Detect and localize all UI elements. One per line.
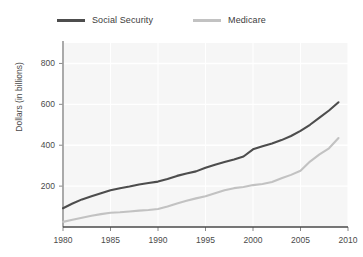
chart-container: Social Security Medicare Dollars (in bil… [0, 0, 363, 257]
x-tick-label: 1990 [149, 235, 168, 245]
y-tick-label: 800 [41, 58, 55, 68]
x-tick-label: 2005 [291, 235, 310, 245]
x-tick-label: 1985 [101, 235, 120, 245]
x-tick-label: 2010 [339, 235, 358, 245]
y-tick-label: 200 [41, 181, 55, 191]
x-tick-label: 1995 [196, 235, 215, 245]
x-tick-label: 1980 [54, 235, 73, 245]
y-tick-label: 600 [41, 99, 55, 109]
plot-area: 2004006008001980198519901995200020052010 [0, 0, 363, 257]
y-tick-label: 400 [41, 140, 55, 150]
x-tick-label: 2000 [244, 235, 263, 245]
